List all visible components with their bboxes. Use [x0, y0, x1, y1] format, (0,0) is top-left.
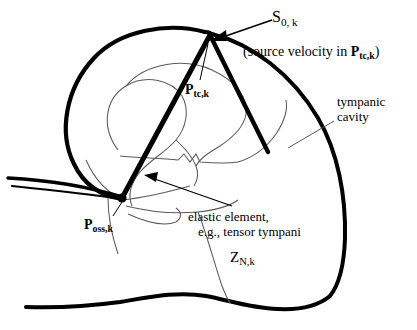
- elastic-line-2: e.g., tensor tympani: [188, 225, 301, 240]
- s0-subscript: 0, k: [281, 16, 298, 28]
- poss-subscript: oss,k: [93, 223, 113, 234]
- tympanic-membrane-bold-line: [122, 35, 210, 198]
- zn-base: Z: [230, 249, 239, 265]
- label-tympanic-cavity: tympanic cavity: [337, 95, 385, 124]
- s0-vertex-node: [208, 33, 213, 38]
- s0-arrow-line: [220, 20, 272, 38]
- elastic-line-1: elastic element,: [188, 209, 269, 224]
- s0-base: S: [272, 8, 281, 25]
- ptc-subscript: tc,k: [194, 88, 210, 99]
- label-elastic-element: elastic element, e.g., tensor tympani: [188, 210, 301, 239]
- inner-contour-ossicle-zigzag: [120, 154, 238, 163]
- label-impedance: ZN,k: [230, 249, 255, 268]
- zn-subscript: N,k: [239, 256, 254, 267]
- label-poss: Poss,k: [84, 217, 113, 235]
- source-caption-bold-p: P: [351, 44, 360, 59]
- source-caption-subscript: tc,k: [359, 50, 375, 61]
- elastic-element-arrow-line: [152, 178, 232, 206]
- inner-contour-canal-wall: [176, 140, 198, 186]
- label-source-caption: (source velocity in Ptc,k): [243, 44, 379, 62]
- tympanic-line-2: cavity: [337, 109, 369, 124]
- neck-outline-path: [26, 294, 330, 309]
- elastic-element-arrow-head: [144, 172, 158, 182]
- poss-base: P: [84, 217, 93, 232]
- source-caption-pre: (source velocity in: [243, 44, 351, 59]
- poss-vertex-dot: [117, 193, 126, 202]
- poss-leader-line: [113, 202, 122, 216]
- figure-canvas: S0, k (source velocity in Ptc,k) Ptc,k P…: [0, 0, 417, 330]
- inner-contour-jaw-lower: [128, 208, 181, 224]
- tympanic-line-1: tympanic: [337, 94, 385, 109]
- label-source-velocity-symbol: S0, k: [272, 8, 298, 28]
- source-caption-post: ): [375, 44, 380, 59]
- ptc-base: P: [185, 82, 194, 97]
- label-ptc: Ptc,k: [185, 82, 209, 100]
